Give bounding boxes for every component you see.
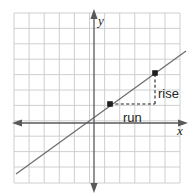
lower-point-marker	[107, 101, 113, 107]
rise-label: rise	[158, 86, 179, 101]
coordinate-plane-figure: rise run y x	[0, 0, 193, 196]
y-axis-label: y	[96, 13, 104, 28]
upper-point-marker	[152, 70, 158, 76]
run-label: run	[123, 110, 142, 125]
x-axis-label: x	[176, 123, 183, 138]
